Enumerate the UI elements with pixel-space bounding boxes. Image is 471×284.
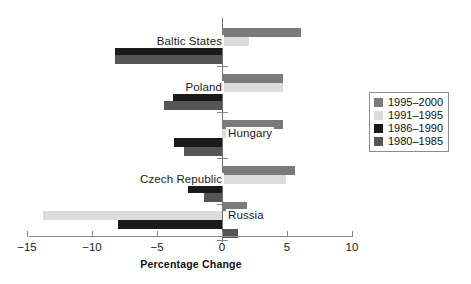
x-axis-tick-label: 10	[346, 241, 359, 253]
legend: 1995–20001991–19951986–19901980–1985	[369, 92, 449, 152]
x-axis-tick	[27, 231, 28, 237]
x-axis-line	[29, 236, 353, 237]
x-axis-tick	[157, 231, 158, 237]
x-axis-tick-label: −5	[150, 241, 163, 253]
bar	[222, 28, 301, 37]
x-axis-tick-label: 0	[219, 241, 225, 253]
bar	[118, 220, 222, 229]
legend-swatch-icon	[374, 98, 383, 107]
legend-row: 1995–2000	[374, 96, 443, 109]
bar	[43, 211, 222, 220]
x-axis-tick	[92, 231, 93, 237]
legend-swatch-icon	[374, 111, 383, 120]
legend-label: 1986–1990	[388, 122, 443, 135]
legend-label: 1980–1985	[388, 135, 443, 148]
legend-row: 1980–1985	[374, 135, 443, 148]
group-separator-tick	[217, 66, 228, 67]
bar	[222, 83, 283, 92]
x-axis-tick	[222, 231, 223, 237]
x-axis-tick-label: −15	[17, 241, 37, 253]
bar	[222, 175, 286, 184]
legend-swatch-icon	[374, 124, 383, 133]
bar	[204, 193, 222, 202]
group-separator-tick	[217, 112, 228, 113]
x-axis-tick-label: −10	[82, 241, 102, 253]
group-separator-tick	[217, 158, 228, 159]
legend-label: 1991–1995	[388, 109, 443, 122]
category-label: Baltic States	[0, 35, 224, 48]
category-label: Czech Republic	[0, 173, 224, 186]
x-axis-title: Percentage Change	[29, 258, 353, 270]
bar	[164, 101, 223, 110]
bar	[222, 166, 295, 175]
bar	[222, 74, 283, 83]
category-label: Hungary	[226, 127, 274, 140]
legend-swatch-icon	[374, 137, 383, 146]
category-label: Russia	[226, 209, 266, 222]
bar	[222, 37, 249, 46]
bar	[115, 55, 222, 64]
bar-group	[0, 202, 360, 238]
bar	[174, 138, 222, 147]
legend-row: 1991–1995	[374, 109, 443, 122]
category-label: Poland	[0, 81, 224, 94]
legend-row: 1986–1990	[374, 122, 443, 135]
legend-label: 1995–2000	[388, 96, 443, 109]
bar-chart: Baltic StatesPolandHungaryCzech Republic…	[0, 0, 471, 284]
x-axis-tick	[352, 231, 353, 237]
plot-area: Baltic StatesPolandHungaryCzech Republic…	[0, 10, 360, 235]
x-axis-tick-label: 5	[284, 241, 290, 253]
bar-group	[0, 120, 360, 156]
x-axis-tick	[287, 231, 288, 237]
bar	[184, 147, 222, 156]
